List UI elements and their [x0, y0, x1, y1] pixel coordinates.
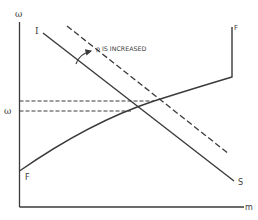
shift-arrow-icon — [76, 51, 91, 64]
curve-f-end-label: F — [234, 24, 238, 32]
curve-shifted-dashed — [67, 26, 229, 154]
curve-i-label: I — [35, 26, 39, 36]
equilibrium-omega-label: ω — [4, 106, 11, 116]
annotation-rho-increased: ρ IS INCREASED — [96, 45, 146, 53]
diagram: ω m ω I S F F ρ IS INCREASED — [0, 0, 258, 220]
curve-f-start-label: F — [25, 173, 30, 182]
y-axis-label: ω — [15, 9, 22, 19]
curve-s-label: S — [238, 178, 243, 187]
x-axis-label: m — [245, 203, 253, 212]
